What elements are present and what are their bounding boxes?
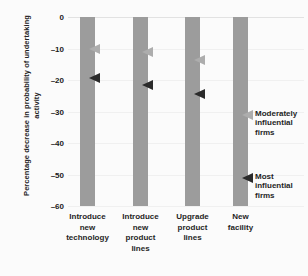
annotation-moderately-influential-firms: Moderatelyinfluentialfirms: [255, 109, 308, 138]
y-axis-tick-0: 0: [30, 13, 64, 22]
marker-moderately-influential-0: [89, 44, 100, 54]
x-axis-label-line: facility: [214, 223, 268, 234]
annotation-line: Moderately: [255, 109, 308, 119]
x-axis-category-labels: IntroducenewtechnologyIntroducenewproduc…: [68, 212, 304, 276]
x-axis-label-2: Upgradeproductlines: [166, 212, 220, 244]
marker-most-influential-2: [194, 89, 205, 99]
x-axis-label-line: Introduce: [114, 212, 168, 223]
marker-most-influential-1: [142, 80, 153, 90]
y-axis-tick-neg50: –50: [30, 170, 64, 179]
y-axis-tick-neg10: –10: [30, 44, 64, 53]
marker-most-influential-3: [242, 173, 253, 183]
y-axis-tick-neg30: –30: [30, 107, 64, 116]
x-axis-label-line: new: [61, 223, 115, 234]
x-axis-label-line: New: [214, 212, 268, 223]
gridline: [68, 206, 304, 207]
marker-moderately-influential-3: [242, 110, 253, 120]
y-axis-tick-neg20: –20: [30, 76, 64, 85]
marker-most-influential-0: [89, 73, 100, 83]
x-axis-label-line: new: [114, 223, 168, 234]
bar-1: [133, 17, 148, 206]
y-axis-tick-neg40: –40: [30, 139, 64, 148]
marker-moderately-influential-2: [194, 55, 205, 65]
x-axis-label-line: lines: [114, 244, 168, 255]
chart-container: Percentage decrease in probability of un…: [0, 0, 308, 276]
plot-area: ModeratelyinfluentialfirmsMostinfluentia…: [68, 17, 304, 206]
annotation-line: influential: [255, 118, 308, 128]
annotation-line: firms: [255, 128, 308, 138]
x-axis-label-line: product: [166, 223, 220, 234]
y-axis-tick-labels: 0–10–20–30–40–50–60: [30, 0, 64, 276]
annotation-line: Most: [255, 172, 308, 182]
x-axis-label-line: technology: [61, 233, 115, 244]
x-axis-label-line: lines: [166, 233, 220, 244]
x-axis-label-3: Newfacility: [214, 212, 268, 233]
annotation-line: firms: [255, 191, 308, 201]
x-axis-label-line: Upgrade: [166, 212, 220, 223]
x-axis-label-0: Introducenewtechnology: [61, 212, 115, 244]
x-axis-label-1: Introducenewproductlines: [114, 212, 168, 254]
bar-2: [185, 17, 200, 206]
x-axis-label-line: Introduce: [61, 212, 115, 223]
annotation-most-influential-firms: Mostinfluentialfirms: [255, 172, 308, 201]
x-axis-label-line: product: [114, 233, 168, 244]
y-axis-tick-neg60: –60: [30, 202, 64, 211]
annotation-line: influential: [255, 181, 308, 191]
marker-moderately-influential-1: [142, 47, 153, 57]
